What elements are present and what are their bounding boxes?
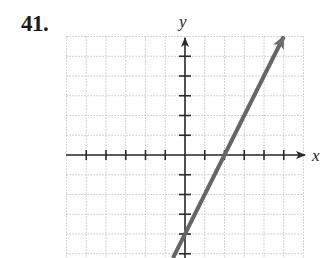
y-axis-label: y: [177, 12, 187, 31]
plotted-line: [173, 37, 284, 258]
coordinate-graph: x y: [0, 0, 330, 258]
x-axis-label: x: [311, 146, 320, 165]
